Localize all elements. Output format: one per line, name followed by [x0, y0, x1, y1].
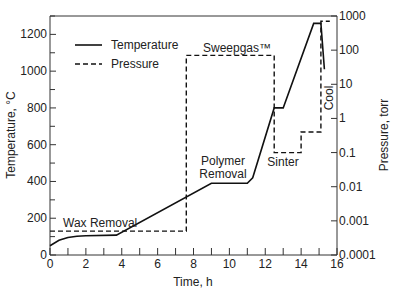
x-axis-label: Time, h — [173, 275, 213, 289]
left-y-tick-label: 1000 — [20, 64, 47, 78]
legend: Temperature Pressure — [75, 38, 179, 71]
annotation-sweepgas: Sweepgas™ — [203, 41, 271, 55]
right-y-tick-label: 1000 — [339, 9, 366, 23]
left-y-tick-label: 600 — [27, 138, 47, 152]
x-tick-label: 14 — [294, 257, 308, 271]
right-y-tick-label: 0.001 — [339, 214, 369, 228]
right-y-axis-label: Pressure, torr — [377, 99, 391, 172]
x-tick-label: 10 — [223, 257, 237, 271]
left-y-tick-label: 0 — [40, 248, 47, 262]
right-y-tick-label: 0.0001 — [339, 248, 376, 262]
annotation-removal: Removal — [199, 167, 246, 181]
x-tick-label: 8 — [190, 257, 197, 271]
legend-temperature-label: Temperature — [111, 38, 179, 52]
temperature-series-line — [50, 23, 324, 245]
left-y-tick-label: 200 — [27, 211, 47, 225]
right-y-tick-label: 10 — [339, 77, 353, 91]
left-y-axis-ticks: 020040060080010001200 — [20, 16, 56, 262]
annotation-wax-removal: Wax Removal — [63, 216, 137, 230]
annotation-cool: Cool — [322, 86, 336, 111]
x-tick-label: 2 — [83, 257, 90, 271]
left-y-tick-label: 1200 — [20, 27, 47, 41]
right-y-axis-ticks: 0.00010.0010.010.11101001000 — [331, 9, 376, 262]
right-y-tick-label: 0.01 — [339, 180, 363, 194]
x-axis-ticks: 0246810121416 — [47, 248, 344, 271]
x-tick-label: 4 — [118, 257, 125, 271]
pressure-series-line — [50, 21, 330, 231]
right-y-tick-label: 0.1 — [339, 146, 356, 160]
left-y-tick-label: 800 — [27, 101, 47, 115]
left-y-axis-label: Temperature, °C — [4, 91, 18, 179]
annotation-sinter: Sinter — [267, 155, 298, 169]
x-tick-label: 12 — [259, 257, 273, 271]
left-y-tick-label: 400 — [27, 174, 47, 188]
x-tick-label: 6 — [154, 257, 161, 271]
right-y-tick-label: 100 — [339, 43, 359, 57]
x-tick-label: 0 — [47, 257, 54, 271]
right-y-tick-label: 1 — [339, 111, 346, 125]
chart: 0246810121416 020040060080010001200 0.00… — [0, 0, 399, 296]
legend-pressure-label: Pressure — [111, 57, 159, 71]
annotation-polymer: Polymer — [201, 154, 245, 168]
